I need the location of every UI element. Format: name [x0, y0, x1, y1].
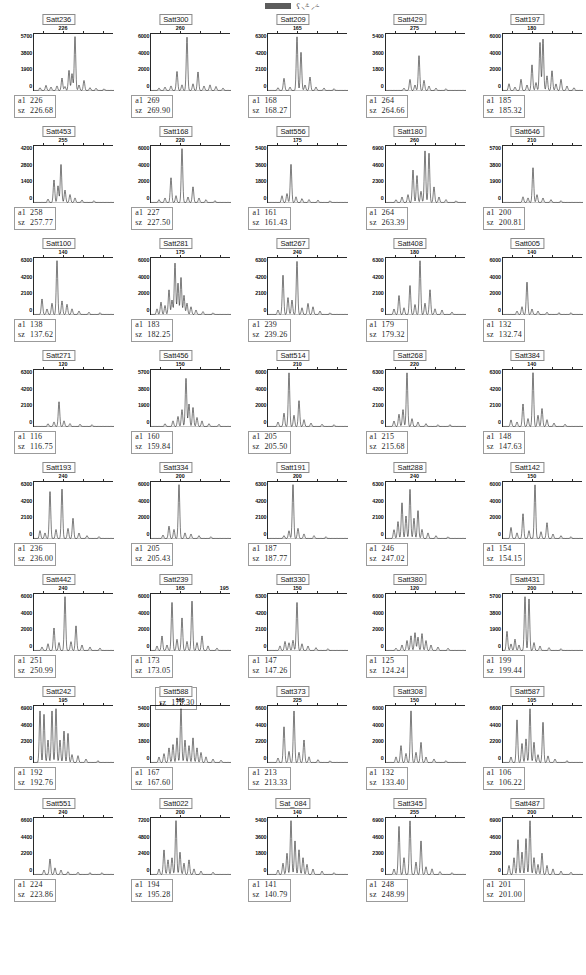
size-row: sz205.50 [252, 442, 287, 452]
allele-row: a1148 [487, 432, 522, 442]
allele-callout[interactable]: a1148sz147.63 [483, 431, 525, 454]
marker-panel[interactable]: Satt5885400360018000165a1167sz167.60 [117, 684, 234, 796]
marker-panel[interactable]: Satt2426900460023000195a1192sz192.76 [0, 684, 117, 796]
y-axis-tick-label: 6000 [372, 594, 383, 600]
allele-callout[interactable]: a1269sz269.90 [131, 95, 173, 118]
marker-panel[interactable]: Satt1936300420021000240a1236sz236.00 [0, 460, 117, 572]
size-key: sz [135, 218, 147, 228]
size-value: 173.05 [147, 666, 170, 676]
allele-callout[interactable]: a1200sz200.81 [483, 207, 525, 230]
marker-panel[interactable]: Satt3006000400020000260a1269sz269.90 [117, 12, 234, 124]
allele-callout[interactable]: a1179sz179.32 [366, 319, 408, 342]
marker-panel[interactable]: Satt3806000400020000120a1125sz124.24 [352, 572, 469, 684]
allele-callout[interactable]: a1236sz236.00 [14, 543, 56, 566]
marker-panel[interactable]: Satt2886300420021000240a1246sz247.02 [352, 460, 469, 572]
marker-panel[interactable]: Satt4426000400020000240a1251sz250.99 [0, 572, 117, 684]
marker-panel[interactable]: Satt4315700380019000200a1199sz199.44 [469, 572, 586, 684]
allele-callout[interactable]: a1251sz250.99 [14, 655, 56, 678]
marker-panel[interactable]: Satt2816000400020000175a1183sz182.25 [117, 236, 234, 348]
allele-callout[interactable]: a1264sz264.66 [366, 95, 408, 118]
allele-callout[interactable]: a1226sz226.68 [14, 95, 56, 118]
allele-callout[interactable]: a1167sz167.60 [131, 767, 173, 790]
figure-page: ʕ⸜⸛⸝⸞ Satt2365700380019000226a1226sz226.… [0, 0, 586, 975]
marker-panel[interactable]: Satt1686000400020000220a1227sz227.50 [117, 124, 234, 236]
marker-panel[interactable]: Satt0227200480024000200a1194sz195.28 [117, 796, 234, 908]
marker-panel[interactable]: Satt3346000400020000200a1205sz205.43 [117, 460, 234, 572]
plot-wrapper: 5700380019000210 [475, 137, 583, 205]
plot-wrapper: 5700380019000150 [123, 361, 231, 429]
marker-panel[interactable]: Satt2676300420021000240a1239sz239.26 [234, 236, 351, 348]
marker-panel[interactable]: Satt1006300420021000140a1138sz137.62 [0, 236, 117, 348]
marker-panel[interactable]: Satt2686300420021000220a1215sz215.68 [352, 348, 469, 460]
marker-panel[interactable]: Satt4534200280014000255a1258sz257.77 [0, 124, 117, 236]
size-row: sz187.77 [252, 554, 287, 564]
allele-callout[interactable]: a1125sz124.24 [366, 655, 408, 678]
y-axis-ticks: 6900460023000 [358, 146, 384, 201]
marker-panel[interactable]: Satt1916300420021000200a1187sz187.77 [234, 460, 351, 572]
marker-panel[interactable]: Satt4295400360018000275a1264sz264.66 [352, 12, 469, 124]
allele-callout[interactable]: a1199sz199.44 [483, 655, 525, 678]
allele-callout[interactable]: a1205sz205.43 [131, 543, 173, 566]
allele-row: a1213 [252, 768, 287, 778]
allele-callout[interactable]: a1246sz247.02 [366, 543, 408, 566]
y-axis-tick-label: 0 [146, 755, 149, 761]
marker-panel[interactable]: Satt3846300420021000140a1148sz147.63 [469, 348, 586, 460]
allele-callout[interactable]: a1213sz213.33 [248, 767, 290, 790]
allele-callout[interactable]: a1160sz159.84 [131, 431, 173, 454]
allele-callout[interactable]: a1168sz168.27 [248, 95, 290, 118]
allele-callout[interactable]: a1173sz173.05 [131, 655, 173, 678]
marker-panel[interactable]: Satt5876600440022000105a1106sz106.22 [469, 684, 586, 796]
allele-callout[interactable]: a1264sz263.39 [366, 207, 408, 230]
marker-panel[interactable]: Satt2716300420021000120a1116sz116.75 [0, 348, 117, 460]
y-axis-ticks: 6000400020000 [6, 594, 32, 649]
allele-callout[interactable]: a1138sz137.62 [14, 319, 56, 342]
marker-panel[interactable]: Satt3456900460023000255a1248sz248.99 [352, 796, 469, 908]
allele-callout[interactable]: a1205sz205.50 [248, 431, 290, 454]
allele-callout[interactable]: a1258sz257.77 [14, 207, 56, 230]
electropherogram-trace [151, 369, 231, 427]
marker-name-label: Satt373 [276, 686, 309, 697]
marker-panel[interactable]: Satt5565400360018000175a1161sz161.43 [234, 124, 351, 236]
allele-callout[interactable]: a1106sz106.22 [483, 767, 525, 790]
marker-panel[interactable]: Satt3736600440022000225a1213sz213.33 [234, 684, 351, 796]
allele-callout[interactable]: a1239sz239.26 [248, 319, 290, 342]
marker-panel[interactable]: Satt6465700380019000210a1200sz200.81 [469, 124, 586, 236]
allele-value: 154 [499, 544, 512, 554]
allele-callout[interactable]: a1132sz133.40 [366, 767, 408, 790]
allele-callout[interactable]: a1248sz248.99 [366, 879, 408, 902]
allele-callout[interactable]: a1224sz223.86 [14, 879, 56, 902]
marker-panel[interactable]: Satt3306300420021000150a1147sz147.26 [234, 572, 351, 684]
y-axis-tick-label: 2000 [138, 515, 149, 521]
marker-panel[interactable]: Satt2365700380019000226a1226sz226.68 [0, 12, 117, 124]
allele-callout[interactable]: a1161sz161.43 [248, 207, 290, 230]
allele-callout[interactable]: a1192sz192.76 [14, 767, 56, 790]
marker-panel[interactable]: Satt1806900460023000260a1264sz263.39 [352, 124, 469, 236]
marker-panel[interactable]: Satt0056000400020000140a1132sz132.74 [469, 236, 586, 348]
marker-panel[interactable]: Satt3086000400020000150a1132sz133.40 [352, 684, 469, 796]
allele-callout[interactable]: a1227sz227.50 [131, 207, 173, 230]
allele-callout[interactable]: a1201sz201.00 [483, 879, 525, 902]
y-axis-tick-label: 4200 [21, 386, 32, 392]
marker-panel[interactable]: Satt1976000400020000180a1185sz185.32 [469, 12, 586, 124]
marker-panel[interactable]: Satt1426000400020000150a1154sz154.15 [469, 460, 586, 572]
allele-callout[interactable]: a1183sz182.25 [131, 319, 173, 342]
allele-callout[interactable]: a1154sz154.15 [483, 543, 525, 566]
allele-callout[interactable]: a1187sz187.77 [248, 543, 290, 566]
marker-panel[interactable]: Sat_0845400360018000140a1141sz140.79 [234, 796, 351, 908]
marker-panel[interactable]: Satt4086300420021000180a1179sz179.32 [352, 236, 469, 348]
allele-key: a1 [487, 208, 499, 218]
marker-panel[interactable]: Satt2096300420021000165a1168sz168.27 [234, 12, 351, 124]
allele-callout[interactable]: a1132sz132.74 [483, 319, 525, 342]
marker-panel[interactable]: Satt4876900460023000200a1201sz201.00 [469, 796, 586, 908]
marker-panel[interactable]: Satt5516600440022000240a1224sz223.86 [0, 796, 117, 908]
y-axis-ticks: 6600440022000 [240, 706, 266, 761]
allele-callout[interactable]: a1116sz116.75 [14, 431, 56, 454]
allele-callout[interactable]: a1194sz195.28 [131, 879, 173, 902]
allele-callout[interactable]: a1141sz140.79 [248, 879, 290, 902]
marker-panel[interactable]: Satt4565700380019000150a1160sz159.84 [117, 348, 234, 460]
marker-panel[interactable]: Satt5146000400020000210a1205sz205.50 [234, 348, 351, 460]
allele-value: 141 [264, 880, 277, 890]
allele-callout[interactable]: a1147sz147.26 [248, 655, 290, 678]
allele-callout[interactable]: a1185sz185.32 [483, 95, 525, 118]
allele-callout[interactable]: a1215sz215.68 [366, 431, 408, 454]
